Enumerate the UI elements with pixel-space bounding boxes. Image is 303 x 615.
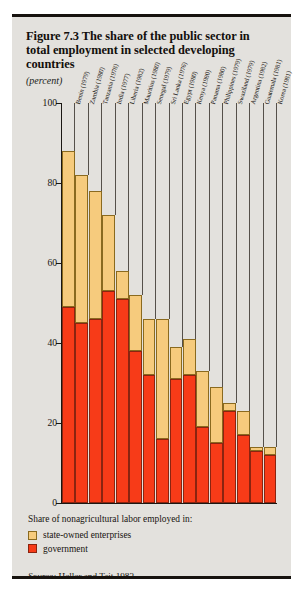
bar-segment-government [116, 299, 129, 503]
bar-segment-government [264, 455, 277, 503]
bar-series-container [62, 103, 277, 503]
leader-line [222, 103, 223, 387]
bar-segment-government [237, 435, 250, 503]
bar-column [75, 175, 88, 503]
bar-column [196, 371, 209, 503]
bar-segment-state-owned-enterprises [129, 295, 142, 351]
bar-column [250, 447, 263, 503]
y-axis-labels: 020406080100 [26, 103, 60, 503]
y-axis-tickmark-60 [56, 263, 61, 264]
figure-panel: Figure 7.3 The share of the public secto… [12, 14, 291, 579]
bar-segment-government [156, 439, 169, 503]
bar-column [264, 447, 277, 503]
bar-segment-state-owned-enterprises [62, 151, 75, 307]
bar-segment-state-owned-enterprises [250, 447, 263, 451]
bar-segment-government [223, 411, 236, 503]
legend-item-government: government [28, 544, 278, 554]
leader-line [195, 103, 196, 339]
chart-legend: Share of nonagricultural labor employed … [28, 514, 278, 557]
bar-segment-government [129, 351, 142, 503]
bar-segment-state-owned-enterprises [183, 339, 196, 375]
legend-label-government: government [43, 544, 88, 554]
bar-segment-government [62, 307, 75, 503]
bar-column [143, 319, 156, 503]
bar-segment-state-owned-enterprises [102, 215, 115, 291]
bar-segment-state-owned-enterprises [143, 319, 156, 375]
bar-segment-government [183, 375, 196, 503]
bar-segment-state-owned-enterprises [196, 371, 209, 427]
leader-line [236, 103, 237, 403]
bar-column [62, 151, 75, 503]
bar-segment-government [89, 319, 102, 503]
bar-column [210, 387, 223, 503]
bar-segment-government [102, 291, 115, 503]
leader-line [263, 103, 264, 447]
y-axis-tickmark-80 [56, 183, 61, 184]
leader-line [88, 103, 89, 175]
leader-line [276, 103, 277, 447]
y-axis-tickmark-40 [56, 343, 61, 344]
leader-line [169, 103, 170, 319]
y-axis-tick-100: 100 [43, 98, 57, 108]
bar-segment-state-owned-enterprises [156, 319, 169, 439]
bar-column [183, 339, 196, 503]
leader-line [142, 103, 143, 295]
bar-segment-government [196, 427, 209, 503]
category-label: Korea (1981) [276, 70, 292, 105]
bar-segment-government [143, 375, 156, 503]
bar-segment-state-owned-enterprises [210, 387, 223, 443]
leader-line [182, 103, 183, 347]
x-axis-line [62, 503, 277, 504]
bar-column [89, 191, 102, 503]
bar-column [170, 347, 183, 503]
bar-segment-state-owned-enterprises [237, 411, 250, 435]
leader-line [115, 103, 116, 215]
bar-column [156, 319, 169, 503]
bar-segment-state-owned-enterprises [116, 271, 129, 299]
y-axis-tickmark-20 [56, 423, 61, 424]
bar-segment-state-owned-enterprises [75, 175, 88, 323]
bar-column [102, 215, 115, 503]
bar-column [223, 403, 236, 503]
y-axis-tickmark-100 [56, 103, 61, 104]
legend-item-state-owned-enterprises: state-owned enterprises [28, 530, 278, 540]
leader-line [155, 103, 156, 319]
bar-column [237, 411, 250, 503]
leader-line [74, 103, 75, 151]
bar-segment-government [210, 443, 223, 503]
bar-segment-state-owned-enterprises [264, 447, 277, 455]
bar-segment-state-owned-enterprises [223, 403, 236, 411]
leader-line [101, 103, 102, 191]
legend-title: Share of nonagricultural labor employed … [28, 514, 278, 524]
bar-segment-government [170, 379, 183, 503]
bar-column [116, 271, 129, 503]
y-axis-tickmark-0 [56, 503, 61, 504]
leader-line [209, 103, 210, 371]
legend-swatch-state-owned-enterprises [28, 531, 37, 540]
source-text: Heller and Tait 1983. [56, 571, 136, 581]
leader-line [128, 103, 129, 271]
bar-segment-government [75, 323, 88, 503]
bar-segment-government [250, 451, 263, 503]
chart-plot-area: 020406080100 Benin (1979)Zambia (1980)Ta… [26, 103, 277, 503]
bar-segment-state-owned-enterprises [89, 191, 102, 319]
bar-segment-state-owned-enterprises [170, 347, 183, 379]
leader-line [249, 103, 250, 411]
source-note: Source: Heller and Tait 1983. [28, 571, 136, 581]
bar-column [129, 295, 142, 503]
source-prefix: Source: [28, 571, 56, 581]
legend-swatch-government [28, 544, 37, 553]
legend-label-state-owned-enterprises: state-owned enterprises [43, 530, 131, 540]
